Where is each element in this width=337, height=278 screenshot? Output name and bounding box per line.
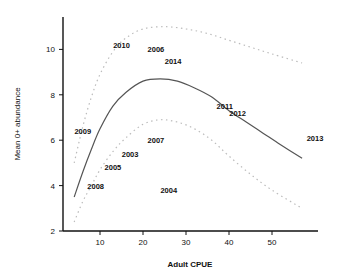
fitted-line (74, 79, 302, 197)
y-tick-label: 4 (51, 182, 56, 191)
x-tick-label: 30 (182, 238, 191, 247)
y-axis-title: Mean 0+ abundance (13, 87, 22, 161)
year-label: 2008 (87, 182, 104, 191)
x-tick-label: 40 (225, 238, 234, 247)
y-tick-label: 8 (51, 91, 56, 100)
x-ticks: 1020304050 (96, 231, 277, 247)
year-label: 2014 (165, 57, 183, 66)
chart: 246810 1020304050 2003200420052006200720… (0, 0, 337, 278)
year-label: 2003 (122, 150, 139, 159)
x-axis-title: Adult CPUE (168, 260, 214, 269)
year-label: 2006 (148, 45, 165, 54)
y-tick-label: 10 (46, 45, 55, 54)
year-label: 2007 (148, 136, 165, 145)
year-label: 2013 (307, 134, 324, 143)
confidence-interval-lines (74, 27, 302, 222)
y-ticks: 246810 (46, 45, 63, 236)
x-tick-label: 50 (268, 238, 277, 247)
year-label: 2005 (105, 163, 122, 172)
y-tick-label: 2 (51, 227, 56, 236)
x-tick-label: 10 (96, 238, 105, 247)
year-label: 2012 (229, 109, 246, 118)
upper_ci-line (74, 27, 302, 163)
x-tick-label: 20 (139, 238, 148, 247)
y-tick-label: 6 (51, 136, 56, 145)
year-label: 2004 (160, 186, 178, 195)
axes (63, 17, 318, 231)
year-label: 2009 (74, 127, 91, 136)
point-labels: 2003200420052006200720082009201020112012… (74, 41, 323, 195)
fitted-curve (74, 79, 302, 197)
year-label: 2010 (113, 41, 130, 50)
